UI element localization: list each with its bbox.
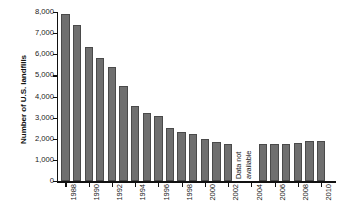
y-tick-label-8000: 8,000 xyxy=(20,8,54,16)
bar-2005 xyxy=(259,144,267,181)
x-axis-tick-labels: 1988199019921994199619982000200220042006… xyxy=(57,184,337,223)
x-tick-label-2002: 2002 xyxy=(231,184,240,201)
bar-2009 xyxy=(305,141,313,181)
y-tick-label-2000: 2,000 xyxy=(20,135,54,143)
bar-1996 xyxy=(154,116,162,181)
bar-1994 xyxy=(131,106,139,181)
bar-1995 xyxy=(143,113,151,181)
x-axis-line xyxy=(57,181,336,183)
y-tick-label-4000: 4,000 xyxy=(20,93,54,101)
y-tick-mark xyxy=(53,139,57,140)
y-tick-mark xyxy=(53,118,57,119)
bar-2010 xyxy=(317,141,325,181)
bar-1997 xyxy=(166,128,174,181)
y-tick-mark xyxy=(53,97,57,98)
y-tick-label-3000: 3,000 xyxy=(20,114,54,122)
bar-1992 xyxy=(108,67,116,181)
y-tick-mark xyxy=(53,181,57,182)
y-tick-mark xyxy=(53,160,57,161)
landfills-bar-chart: Number of U.S. landfills 01,0002,0003,00… xyxy=(0,0,337,223)
bar-1988 xyxy=(61,14,69,181)
y-tick-mark xyxy=(53,75,57,76)
bar-1993 xyxy=(119,86,127,181)
data-not-available-annotation-line1: Data not xyxy=(234,152,243,179)
y-tick-label-7000: 7,000 xyxy=(20,29,54,37)
x-tick-label-1992: 1992 xyxy=(115,184,124,201)
x-tick-label-2006: 2006 xyxy=(278,184,287,201)
x-tick-label-2010: 2010 xyxy=(324,184,333,201)
x-tick-label-2004: 2004 xyxy=(255,184,264,201)
bar-2007 xyxy=(282,144,290,181)
x-tick-label-1994: 1994 xyxy=(138,184,147,201)
bar-1991 xyxy=(96,58,104,181)
bar-2000 xyxy=(201,139,209,181)
bar-2001 xyxy=(212,142,220,181)
bar-2002 xyxy=(224,144,232,181)
bar-2008 xyxy=(294,143,302,181)
x-tick-label-2008: 2008 xyxy=(301,184,310,201)
bar-1989 xyxy=(73,25,81,181)
y-axis-tick-labels: 01,0002,0003,0004,0005,0006,0007,0008,00… xyxy=(18,0,54,223)
x-tick-label-2000: 2000 xyxy=(208,184,217,201)
plot-area: Data not available xyxy=(57,12,334,182)
y-tick-mark xyxy=(53,33,57,34)
y-axis-line xyxy=(57,12,58,182)
y-tick-mark xyxy=(53,54,57,55)
x-tick-label-1990: 1990 xyxy=(92,184,101,201)
data-not-available-annotation-line2: available xyxy=(244,151,253,179)
bar-1999 xyxy=(189,134,197,181)
x-tick-label-1988: 1988 xyxy=(69,184,78,201)
y-tick-mark xyxy=(53,12,57,13)
y-tick-label-5000: 5,000 xyxy=(20,71,54,79)
x-tick-label-1998: 1998 xyxy=(185,184,194,201)
bar-1998 xyxy=(177,132,185,181)
bar-2006 xyxy=(270,144,278,181)
y-tick-label-0: 0 xyxy=(20,177,54,185)
y-tick-label-6000: 6,000 xyxy=(20,50,54,58)
y-tick-label-1000: 1,000 xyxy=(20,156,54,164)
x-tick-label-1996: 1996 xyxy=(162,184,171,201)
bar-1990 xyxy=(85,47,93,181)
